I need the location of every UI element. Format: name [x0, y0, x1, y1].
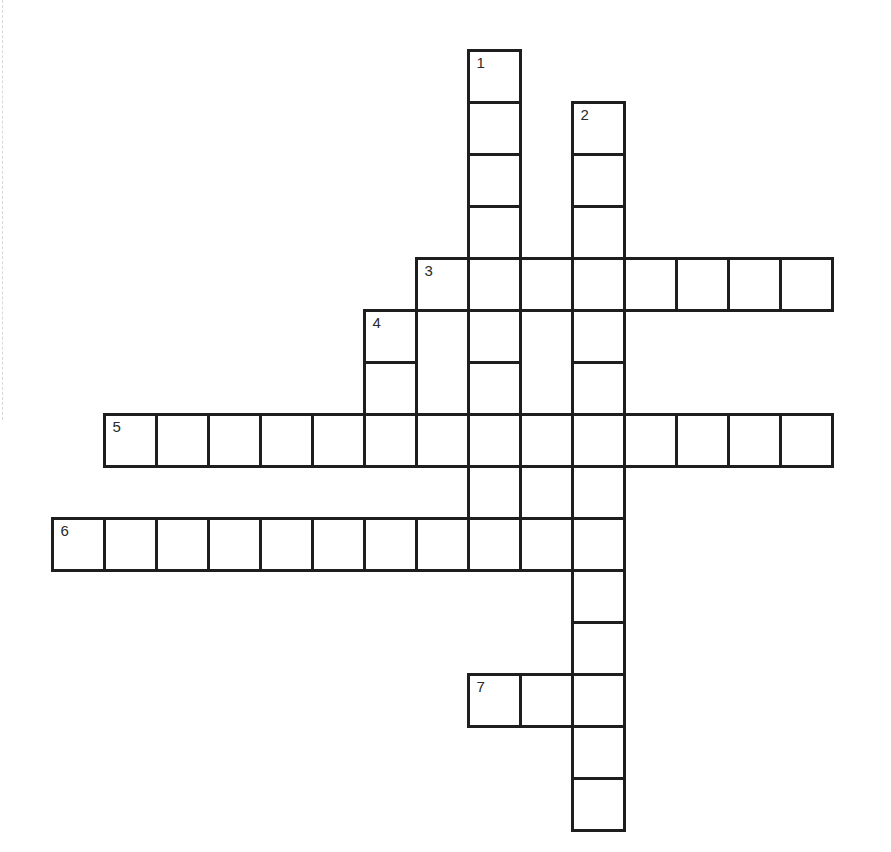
crossword-cell[interactable]: 5 — [103, 413, 158, 468]
crossword-cell[interactable] — [311, 413, 366, 468]
crossword-cell[interactable] — [363, 517, 418, 572]
crossword-cell[interactable] — [207, 517, 262, 572]
clue-number: 5 — [113, 419, 121, 434]
clue-number: 4 — [373, 315, 381, 330]
crossword-cell[interactable] — [363, 413, 418, 468]
crossword-cell[interactable] — [259, 413, 314, 468]
clue-number: 1 — [477, 55, 485, 70]
clue-number: 2 — [581, 107, 589, 122]
crossword-cell[interactable] — [467, 101, 522, 156]
crossword-cell[interactable] — [571, 257, 626, 312]
crossword-cell[interactable] — [727, 413, 782, 468]
clue-number: 7 — [477, 679, 485, 694]
crossword-cell[interactable] — [311, 517, 366, 572]
crossword-cell[interactable] — [571, 725, 626, 780]
crossword-cell[interactable] — [467, 465, 522, 520]
crossword-cell[interactable] — [779, 413, 834, 468]
crossword-cell[interactable] — [623, 257, 678, 312]
crossword-cell[interactable] — [675, 257, 730, 312]
crossword-cell[interactable] — [467, 257, 522, 312]
crossword-cell[interactable] — [779, 257, 834, 312]
crossword-cell[interactable] — [571, 361, 626, 416]
crossword-cell[interactable]: 7 — [467, 673, 522, 728]
crossword-cell[interactable] — [467, 309, 522, 364]
crossword-cell[interactable] — [623, 413, 678, 468]
clue-number: 6 — [61, 523, 69, 538]
crossword-cell[interactable] — [207, 413, 262, 468]
crossword-cell[interactable] — [571, 569, 626, 624]
crossword-cell[interactable] — [519, 413, 574, 468]
crossword-cell[interactable] — [675, 413, 730, 468]
crossword-cell[interactable]: 3 — [415, 257, 470, 312]
crossword-cell[interactable] — [571, 465, 626, 520]
crossword-cell[interactable] — [571, 309, 626, 364]
crossword-cell[interactable] — [571, 621, 626, 676]
crossword-cell[interactable] — [259, 517, 314, 572]
crossword-cell[interactable] — [571, 673, 626, 728]
crossword-cell[interactable]: 2 — [571, 101, 626, 156]
crossword-cell[interactable] — [467, 205, 522, 260]
crossword-cell[interactable] — [155, 413, 210, 468]
crossword-cell[interactable]: 4 — [363, 309, 418, 364]
crossword-cell[interactable] — [571, 777, 626, 832]
crossword-cell[interactable] — [519, 465, 574, 520]
crossword-cell[interactable] — [103, 517, 158, 572]
crossword-merged-region — [519, 309, 574, 416]
crossword-cell[interactable] — [571, 413, 626, 468]
crossword-grid: 1234567 — [0, 0, 891, 852]
crossword-merged-region — [415, 309, 470, 416]
crossword-cell[interactable] — [415, 413, 470, 468]
crossword-cell[interactable] — [467, 361, 522, 416]
crossword-cell[interactable] — [571, 205, 626, 260]
crossword-cell[interactable] — [519, 673, 574, 728]
crossword-cell[interactable] — [467, 517, 522, 572]
crossword-cell[interactable] — [363, 361, 418, 416]
crossword-cell[interactable] — [519, 517, 574, 572]
crossword-cell[interactable]: 1 — [467, 49, 522, 104]
crossword-cell[interactable] — [571, 517, 626, 572]
clue-number: 3 — [425, 263, 433, 278]
crossword-cell[interactable] — [727, 257, 782, 312]
crossword-cell[interactable] — [467, 413, 522, 468]
crossword-cell[interactable] — [155, 517, 210, 572]
crossword-cell[interactable] — [519, 257, 574, 312]
crossword-cell[interactable] — [571, 153, 626, 208]
crossword-cell[interactable] — [467, 153, 522, 208]
crossword-cell[interactable] — [415, 517, 470, 572]
crossword-cell[interactable]: 6 — [51, 517, 106, 572]
